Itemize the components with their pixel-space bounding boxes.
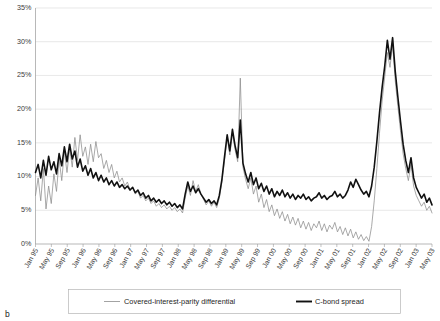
x-tick-label-Sep-95: Sep 95	[54, 247, 72, 270]
x-tick-label-May-03: May 03	[418, 247, 436, 271]
y-tick-label-20%: 20%	[17, 104, 32, 113]
y-axis-tick-labels: 0%5%10%15%20%25%30%35%	[17, 3, 32, 248]
x-tick-label-Sep-00: Sep 00	[292, 247, 310, 270]
x-tick-label-Jan-97: Jan 97	[118, 247, 135, 269]
x-tick-label-May-99: May 99	[228, 247, 246, 271]
x-tick-label-Sep-99: Sep 99	[244, 247, 262, 270]
axes-group	[36, 8, 433, 244]
x-tick-label-May-98: May 98	[180, 247, 198, 271]
y-tick-label-0%: 0%	[21, 239, 32, 248]
x-tick-label-Sep-97: Sep 97	[149, 247, 167, 270]
series-line-c-bond-spread	[36, 38, 433, 209]
x-tick-label-Sep-02: Sep 02	[387, 247, 405, 270]
y-tick-label-25%: 25%	[17, 70, 32, 79]
y-tick-label-15%: 15%	[17, 138, 32, 147]
x-tick-label-Jan-99: Jan 99	[213, 247, 230, 269]
x-tick-label-Jan-00: Jan 00	[261, 247, 278, 269]
legend-label-covered-interest-parity-differential: Covered-interest-parity differential	[124, 297, 236, 306]
y-tick-label-35%: 35%	[17, 3, 32, 12]
x-tick-label-May-96: May 96	[85, 247, 103, 271]
x-tick-label-May-97: May 97	[133, 247, 151, 271]
panel-label-b: b	[5, 309, 10, 319]
figure-panel-b: 0%5%10%15%20%25%30%35% Jan 95May 95Sep 9…	[0, 0, 440, 321]
x-tick-label-Jan-02: Jan 02	[356, 247, 373, 269]
x-tick-label-Jan-01: Jan 01	[308, 247, 325, 269]
y-tick-label-10%: 10%	[17, 171, 32, 180]
x-tick-label-May-01: May 01	[323, 247, 341, 271]
x-tick-label-May-95: May 95	[38, 247, 56, 271]
y-tick-label-30%: 30%	[17, 37, 32, 46]
x-tick-label-Jan-96: Jan 96	[70, 247, 87, 269]
x-axis-tick-labels: Jan 95May 95Sep 95Jan 96May 96Sep 96Jan …	[23, 247, 437, 271]
x-tick-label-May-02: May 02	[371, 247, 389, 271]
x-tick-label-Sep-96: Sep 96	[102, 247, 120, 270]
chart-legend: Covered-interest-parity differential C-b…	[69, 290, 401, 314]
x-tick-label-Jan-95: Jan 95	[23, 247, 40, 269]
legend-label-c-bond-spread: C-bond spread	[315, 297, 364, 306]
x-tick-label-Jan-03: Jan 03	[403, 247, 420, 269]
x-tick-label-May-00: May 00	[276, 247, 294, 271]
x-tickmarks-group	[36, 244, 433, 247]
series-layer	[36, 38, 433, 242]
y-tick-label-5%: 5%	[21, 205, 32, 214]
chart-canvas: 0%5%10%15%20%25%30%35% Jan 95May 95Sep 9…	[0, 0, 440, 321]
x-tick-label-Sep-01: Sep 01	[339, 247, 357, 270]
x-tick-label-Sep-98: Sep 98	[197, 247, 215, 270]
x-tick-label-Jan-98: Jan 98	[166, 247, 183, 269]
